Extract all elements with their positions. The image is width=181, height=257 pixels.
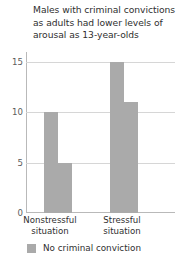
plot-area [26, 52, 175, 213]
bar-nonstressful-series-2[interactable] [58, 163, 72, 213]
y-tick-5: 5 [1, 158, 23, 168]
chart-legend: No criminal conviction [27, 243, 141, 253]
y-tick-10: 10 [1, 107, 23, 117]
chart-title-line-2: as adults had lower levels of [33, 17, 179, 30]
x-category-label-nonstressful-line-1: Nonstressful [14, 215, 86, 226]
chart-title-line-3: arousal as 13-year-olds [33, 29, 179, 42]
bar-group-nonstressful [44, 52, 72, 213]
y-tick-15: 15 [1, 57, 23, 67]
chart-title: Males with criminal convictions as adult… [33, 4, 179, 42]
x-category-label-stressful-line-2: situation [88, 226, 156, 237]
chart-title-line-1: Males with criminal convictions [33, 4, 179, 17]
legend-label-no-criminal-conviction: No criminal conviction [43, 243, 141, 253]
bar-stressful-series-2[interactable] [124, 102, 138, 213]
bar-nonstressful-no-criminal-conviction[interactable] [44, 112, 58, 213]
bar-chart-figure: Males with criminal convictions as adult… [0, 0, 181, 257]
bar-stressful-no-criminal-conviction[interactable] [110, 62, 124, 213]
legend-swatch-icon [27, 244, 36, 253]
x-category-label-nonstressful-line-2: situation [14, 226, 86, 237]
x-category-label-nonstressful: Nonstressful situation [14, 215, 86, 237]
x-category-label-stressful: Stressful situation [88, 215, 156, 237]
x-category-label-stressful-line-1: Stressful [88, 215, 156, 226]
bar-group-stressful [110, 52, 138, 213]
